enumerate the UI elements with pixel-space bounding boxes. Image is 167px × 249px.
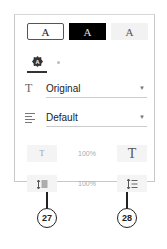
align-left-icon	[25, 113, 39, 123]
font-badge-icon: A	[32, 53, 43, 71]
alignment-value: Default	[46, 112, 78, 123]
theme-black-button[interactable]: A	[69, 23, 106, 40]
font-type-icon: T	[25, 81, 39, 96]
theme-gray-button[interactable]: A	[111, 23, 148, 40]
font-tab-active[interactable]: A	[27, 55, 47, 69]
small-t-icon: T	[40, 149, 45, 158]
svg-text:A: A	[35, 59, 39, 65]
callout-28-line	[126, 192, 128, 209]
active-tab-underline	[27, 71, 47, 73]
chevron-down-icon: ▼	[139, 114, 145, 120]
line-spacing-value: 100%	[78, 180, 96, 187]
callout-27: 27	[37, 208, 57, 228]
line-spacing-decrease-button[interactable]	[27, 175, 57, 192]
large-t-icon: T	[128, 146, 137, 162]
chevron-down-icon: ▼	[139, 85, 145, 91]
reader-settings-panel: A A A A T Original ▼	[14, 14, 155, 182]
theme-selector: A A A	[27, 23, 148, 40]
font-size-row: T 100% T	[27, 145, 147, 162]
font-family-select[interactable]: Original ▼	[46, 79, 147, 98]
theme-white-button[interactable]: A	[27, 23, 64, 40]
font-family-row: T Original ▼	[25, 79, 147, 98]
font-size-increase-button[interactable]: T	[117, 145, 147, 162]
line-spacing-decrease-icon	[37, 175, 48, 193]
alignment-row: Default ▼	[25, 108, 147, 127]
line-spacing-increase-button[interactable]	[117, 175, 147, 192]
line-spacing-row: 100%	[27, 175, 147, 192]
callout-27-line	[46, 192, 48, 209]
callout-28: 28	[117, 208, 137, 228]
line-spacing-increase-icon	[127, 175, 138, 193]
dot-icon[interactable]	[57, 61, 60, 64]
font-tabs: A	[27, 55, 60, 69]
alignment-select[interactable]: Default ▼	[46, 108, 147, 127]
font-size-decrease-button[interactable]: T	[27, 145, 57, 162]
font-size-value: 100%	[78, 150, 96, 157]
font-family-value: Original	[46, 83, 80, 94]
